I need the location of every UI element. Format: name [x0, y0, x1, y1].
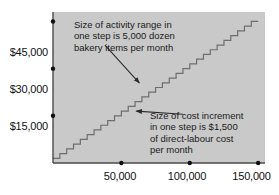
x-tick-label-150000: 150,000 — [224, 170, 279, 182]
y-tick-dot — [51, 66, 55, 70]
x-tick-dot — [119, 161, 123, 165]
y-tick-dot — [51, 114, 55, 118]
y-tick-label-45000: $45,000 — [0, 46, 48, 58]
x-tick-label-100000: 100,000 — [155, 170, 219, 182]
y-tick-dot — [51, 19, 55, 23]
annotation-cost-increment: Size of cost increment in one step is $1… — [150, 110, 268, 156]
x-tick-label-50000: 50,000 — [88, 170, 152, 182]
x-tick-dot — [188, 161, 192, 165]
y-tick-label-30000: $30,000 — [0, 83, 48, 95]
annotation-activity-range: Size of activity range in one step is 5,… — [74, 19, 196, 53]
step-cost-chart: $45,000 $30,000 $15,000 50,000 100,000 1… — [0, 0, 279, 195]
y-tick-label-15000: $15,000 — [0, 120, 48, 132]
x-tick-dot — [256, 161, 260, 165]
